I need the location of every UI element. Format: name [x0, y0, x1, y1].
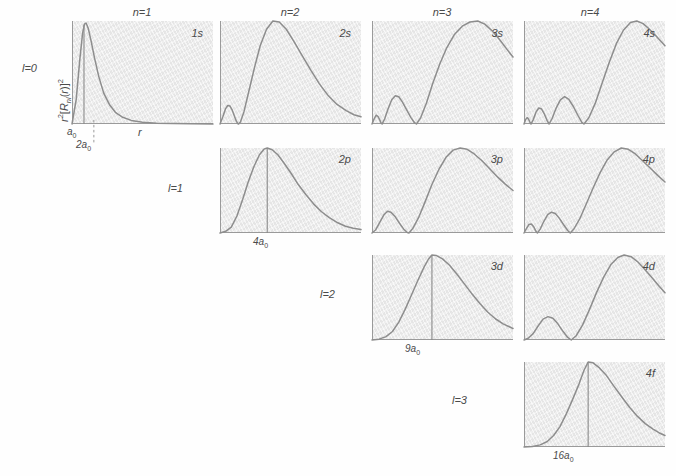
panel-3s: 3s — [372, 21, 513, 124]
column-header-n2: n=2 — [250, 6, 330, 18]
panel-2p-peak-label: 4a0 — [253, 236, 268, 249]
column-header-n1: n=1 — [102, 6, 182, 18]
radial-probability-figure: r2[Rnl(r)]2 n=1 n=2 n=3 n=4 l=0 l=1 l=2 … — [0, 0, 676, 476]
column-header-n4: n=4 — [550, 6, 630, 18]
panel-4f: 4f — [524, 362, 665, 447]
panel-3s-orbital-label: 3s — [491, 27, 503, 39]
row-label-l0: l=0 — [22, 62, 37, 74]
panel-2s-orbital-label: 2s — [339, 27, 351, 39]
row-label-l1: l=1 — [168, 182, 183, 194]
panel-4p-orbital-label: 4p — [643, 153, 655, 165]
x-axis-caption: r — [138, 126, 142, 138]
panel-3d-peak-label: 9a0 — [405, 343, 420, 356]
panel-4p: 4p — [524, 148, 665, 233]
y-axis-caption: r2[Rnl(r)]2 — [56, 79, 73, 122]
panel-4s-orbital-label: 4s — [643, 27, 655, 39]
panel-4f-peak-label: 16a0 — [553, 450, 574, 463]
panel-1s-2a0-label: 2a0 — [76, 139, 91, 152]
row-label-l3: l=3 — [452, 394, 467, 406]
panel-1s-a0-label: a0 — [67, 126, 76, 139]
panel-1s: 1s — [72, 21, 213, 124]
panel-3p: 3p — [372, 148, 513, 233]
panel-2p-orbital-label: 2p — [339, 153, 351, 165]
panel-3p-orbital-label: 3p — [491, 153, 503, 165]
panel-4d: 4d — [524, 255, 665, 340]
row-label-l2: l=2 — [320, 288, 335, 300]
panel-2s: 2s — [220, 21, 361, 124]
panel-3d: 3d — [372, 255, 513, 340]
panel-4f-orbital-label: 4f — [646, 367, 655, 379]
panel-1s-orbital-label: 1s — [191, 27, 203, 39]
panel-2p: 2p — [220, 148, 361, 233]
panel-3d-orbital-label: 3d — [491, 260, 503, 272]
panel-4f-curve — [524, 362, 665, 447]
panel-4s: 4s — [524, 21, 665, 124]
column-header-n3: n=3 — [402, 6, 482, 18]
panel-4d-orbital-label: 4d — [643, 260, 655, 272]
panel-4f-plot — [524, 362, 665, 447]
